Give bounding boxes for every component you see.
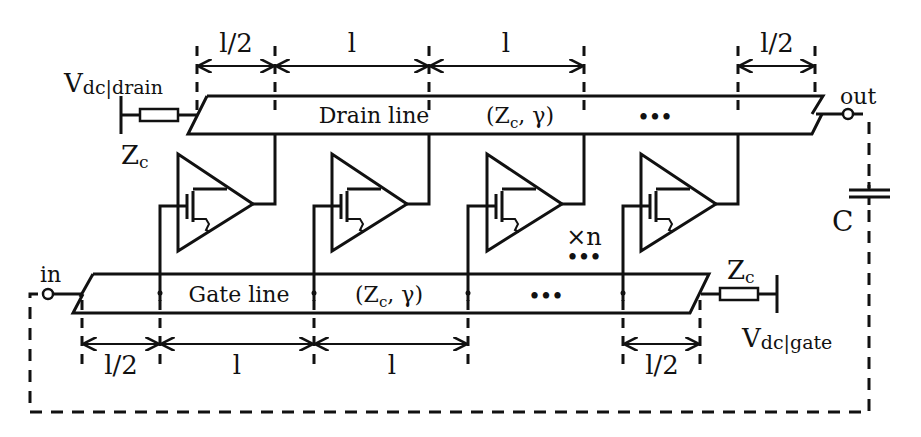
drain-line-label: Drain line xyxy=(319,103,430,128)
feedback-path-lower xyxy=(30,210,869,412)
in-port-icon xyxy=(43,289,53,299)
stage-ellipsis: ••• xyxy=(567,246,602,267)
out-port-icon xyxy=(843,109,853,119)
zc-drain-label: Zc xyxy=(121,140,149,172)
capacitor-label: C xyxy=(832,205,853,238)
gate-params-label: (Zc, γ) xyxy=(355,282,423,311)
distributed-amplifier-diagram: l/2 l l l/2 Drain line (Zc, γ) ••• out V… xyxy=(0,0,921,437)
drain-params-label: (Zc, γ) xyxy=(486,103,554,132)
zc-gate-label: Zc xyxy=(727,255,755,287)
vdc-drain-label: Vdc|drain xyxy=(63,68,163,99)
amplifier-stage-2 xyxy=(314,134,429,301)
top-dim-label-4: l/2 xyxy=(760,28,794,58)
bottom-dim-label-4: l/2 xyxy=(645,350,679,380)
amplifier-stage-3 xyxy=(468,134,584,301)
bottom-dim-label-2: l xyxy=(233,350,241,380)
bottom-dim-label-3: l xyxy=(388,350,396,380)
gate-ellipsis: ••• xyxy=(529,285,564,306)
vdc-gate-label: Vdc|gate xyxy=(741,323,832,354)
in-label: in xyxy=(40,262,61,287)
bottom-dim-label-1: l/2 xyxy=(104,350,138,380)
drain-termination-resistor-icon xyxy=(140,109,178,121)
gate-line-label: Gate line xyxy=(189,282,290,307)
top-dim-label-1: l/2 xyxy=(219,28,253,58)
top-dim-label-2: l xyxy=(348,28,356,58)
out-label: out xyxy=(840,84,876,109)
gate-termination-resistor-icon xyxy=(720,288,758,300)
top-dim-label-3: l xyxy=(502,28,510,58)
amplifier-stage-4 xyxy=(623,134,738,301)
amplifier-stage-1 xyxy=(160,134,275,301)
drain-ellipsis: ••• xyxy=(638,106,673,127)
drain-line-top xyxy=(207,96,823,114)
